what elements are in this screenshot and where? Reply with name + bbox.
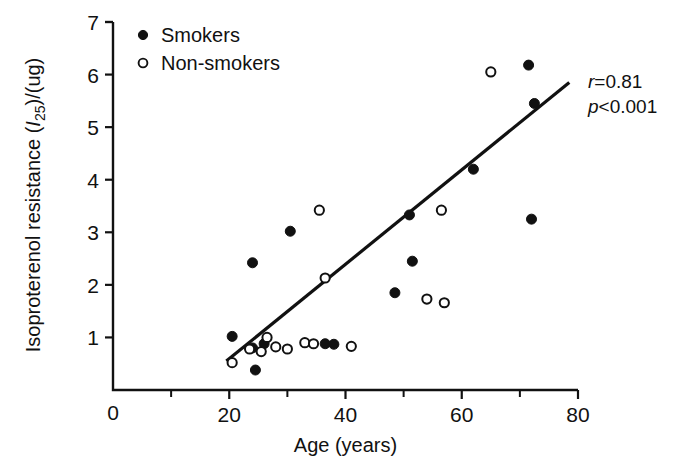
data-point-smoker: [468, 164, 478, 174]
data-point-non-smoker: [283, 344, 292, 353]
plot-canvas: 1234567020406080 SmokersNon-smokers r=0.…: [0, 0, 685, 468]
data-point-non-smoker: [440, 298, 449, 307]
data-point-smoker: [527, 214, 537, 224]
legend-label-smokers: Smokers: [161, 24, 240, 46]
data-point-non-smoker: [245, 344, 254, 353]
y-axis-tick-label: 5: [87, 116, 99, 139]
data-point-smoker: [329, 339, 339, 349]
data-point-non-smoker: [309, 339, 318, 348]
y-axis-tick-label: 2: [87, 274, 99, 297]
data-point-smoker: [407, 256, 417, 266]
data-point-non-smoker: [257, 347, 266, 356]
correlation-annotation: r=0.81: [588, 71, 642, 92]
x-axis-tick-label: 40: [334, 403, 357, 426]
legend-label-non-smokers: Non-smokers: [161, 52, 280, 74]
scatter-plot-figure: 1234567020406080 SmokersNon-smokers r=0.…: [0, 0, 685, 468]
y-axis-title: Isoproterenol resistance (I25)/(ug): [22, 58, 48, 353]
data-point-non-smoker: [271, 342, 280, 351]
legend-group: SmokersNon-smokers: [138, 24, 280, 74]
data-point-non-smoker: [347, 342, 356, 351]
legend-marker-smokers: [138, 30, 147, 39]
data-point-non-smoker: [228, 358, 237, 367]
y-axis-tick-label: 6: [87, 64, 99, 87]
y-axis-tick-label: 7: [87, 11, 99, 34]
y-axis-tick-label: 4: [87, 169, 99, 192]
y-axis-tick-label: 3: [87, 221, 99, 244]
statistics-annotation-group: r=0.81p<0.001: [587, 71, 657, 117]
data-point-non-smoker: [486, 67, 495, 76]
y-axis-title-text: Isoproterenol resistance (I25)/(ug): [22, 58, 48, 353]
regression-line: [226, 82, 569, 361]
data-points-group: [227, 60, 539, 375]
data-point-smoker: [390, 288, 400, 298]
x-axis-tick-label: 20: [218, 403, 241, 426]
axis-titles-group: Age (years)Isoproterenol resistance (I25…: [22, 58, 397, 456]
data-point-smoker: [248, 258, 258, 268]
data-point-smoker: [250, 365, 260, 375]
x-axis-tick-label: 80: [566, 403, 589, 426]
regression-line-group: [226, 82, 569, 361]
pvalue-annotation: p<0.001: [587, 96, 657, 117]
data-point-smoker: [529, 98, 539, 108]
data-point-smoker: [404, 210, 414, 220]
data-point-smoker: [285, 226, 295, 236]
x-axis-title: Age (years): [294, 434, 397, 456]
data-point-non-smoker: [315, 206, 324, 215]
data-point-non-smoker: [321, 273, 330, 282]
data-point-non-smoker: [437, 206, 446, 215]
data-point-smoker: [227, 331, 237, 341]
x-axis-tick-label: 60: [450, 403, 473, 426]
legend-marker-non-smokers: [139, 59, 148, 68]
y-axis-tick-label: 1: [87, 326, 99, 349]
axis-lines: [113, 22, 578, 390]
x-axis-tick-label: 0: [107, 401, 119, 424]
data-point-non-smoker: [262, 333, 271, 342]
data-point-non-smoker: [422, 294, 431, 303]
data-point-smoker: [524, 60, 534, 70]
